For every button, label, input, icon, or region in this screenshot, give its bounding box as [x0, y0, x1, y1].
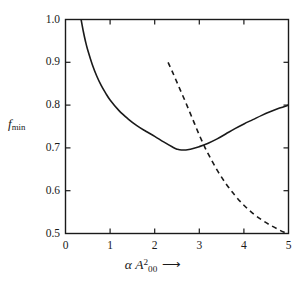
- x-axis-label-subscript: 00: [148, 264, 157, 274]
- x-tick-label: 4: [241, 240, 247, 252]
- y-tick-label: 0.9: [28, 57, 60, 69]
- data-curves: [81, 20, 288, 233]
- y-tick-label: 0.7: [28, 142, 60, 154]
- axis-frame: [66, 20, 289, 234]
- y-tick-label: 0.6: [28, 185, 60, 197]
- y-axis-label-subscript: min: [12, 122, 26, 132]
- x-tick-label: 2: [152, 240, 158, 252]
- x-tick-label: 5: [286, 240, 292, 252]
- x-tick-label: 0: [63, 240, 69, 252]
- curve-f_min-solid: [81, 20, 288, 151]
- figure-container: fmin α A200⟶ 0.50.60.70.80.91.0012345: [0, 0, 305, 290]
- x-tick-label: 3: [196, 240, 202, 252]
- axis-ticks: [66, 20, 289, 234]
- x-axis-label-alpha: α: [125, 257, 132, 272]
- y-tick-label: 0.8: [28, 99, 60, 111]
- x-tick-label: 1: [107, 240, 113, 252]
- x-axis-label: α A200⟶: [0, 258, 305, 274]
- x-axis-arrow-icon: ⟶: [162, 258, 180, 271]
- y-axis-label: fmin: [8, 117, 25, 132]
- curve-f_min-dashed: [168, 62, 285, 232]
- y-tick-label: 1.0: [28, 14, 60, 26]
- y-tick-label: 0.5: [28, 228, 60, 240]
